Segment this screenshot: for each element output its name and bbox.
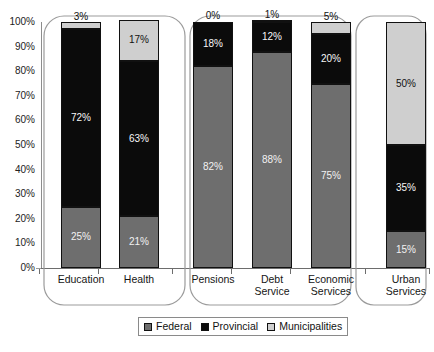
bar-segment-value-label: 1% — [265, 10, 279, 20]
bar-segment-value-label: 5% — [324, 12, 338, 22]
x-axis-category-labels: EducationHealthPensionsDebtServiceEconom… — [41, 269, 430, 307]
bar-stack: 15%35%50% — [386, 22, 426, 268]
bar-segment-value-label: 50% — [396, 79, 416, 89]
y-axis-tick-label: 40% — [15, 165, 35, 175]
y-axis-tick-label: 0% — [21, 263, 35, 273]
bar-segment-value-label: 82% — [203, 162, 223, 172]
x-axis-tick-mark — [231, 269, 232, 274]
x-axis-tick-mark — [429, 269, 430, 274]
y-axis-tick-label: 20% — [15, 214, 35, 224]
stacked-bar-chart: 100%90%80%70%60%50%40%30%20%10%0% 25%72%… — [0, 0, 434, 352]
y-axis-tick-label: 50% — [15, 140, 35, 150]
legend-label: Federal — [156, 321, 192, 332]
bar-column: 15%35%50% — [386, 22, 426, 268]
bar-segment-value-label: 72% — [71, 113, 91, 123]
legend-swatch-icon — [144, 323, 152, 331]
bar-segment-value-label: 75% — [321, 171, 341, 181]
bar-segment: 20% — [311, 34, 351, 83]
bar-segment-value-label: 0% — [206, 11, 220, 21]
x-axis-category-label: EconomicServices — [299, 273, 363, 297]
bar-segment: 63% — [119, 61, 159, 216]
bar-segment-value-label: 17% — [129, 35, 149, 45]
bar-segment: 15% — [386, 231, 426, 268]
legend-label: Municipalities — [279, 321, 342, 332]
bar-segment-value-label: 63% — [129, 134, 149, 144]
bar-segment: 35% — [386, 145, 426, 231]
bar-segment: 5% — [311, 22, 351, 34]
bar-segment: 88% — [252, 52, 292, 268]
bar-segment-value-label: 12% — [262, 32, 282, 42]
bar-column: 75%20%5% — [311, 22, 351, 268]
x-axis-category-label: DebtService — [240, 273, 304, 297]
x-axis-category-label: Pensions — [181, 273, 245, 285]
y-axis-tick-label: 10% — [15, 238, 35, 248]
category-label-line: Health — [107, 273, 171, 285]
bar-column: 21%63%17% — [119, 22, 159, 268]
category-label-line: Services — [299, 285, 363, 297]
bar-segment: 21% — [119, 216, 159, 268]
bar-column: 82%18%0% — [193, 22, 233, 268]
bar-segment-value-label: 18% — [203, 39, 223, 49]
chart-legend: FederalProvincialMunicipalities — [138, 317, 348, 336]
legend-label: Provincial — [213, 321, 259, 332]
legend-item: Municipalities — [267, 321, 342, 332]
legend-item: Provincial — [201, 321, 259, 332]
bar-segment-value-label: 35% — [396, 183, 416, 193]
x-axis-tick-mark — [39, 269, 40, 274]
y-axis-tick-label: 60% — [15, 115, 35, 125]
bar-segment: 18% — [193, 22, 233, 66]
legend-swatch-icon — [201, 323, 209, 331]
bar-column: 88%12%1% — [252, 22, 292, 268]
bar-segment: 75% — [311, 84, 351, 269]
bar-segment: 82% — [193, 66, 233, 268]
bar-stack: 25%72%3% — [61, 22, 101, 268]
bar-segment: 50% — [386, 22, 426, 145]
legend-item: Federal — [144, 321, 192, 332]
y-axis-tick-label: 80% — [15, 66, 35, 76]
bar-segment: 17% — [119, 20, 159, 62]
category-label-line: Education — [49, 273, 113, 285]
x-axis-category-label: Education — [49, 273, 113, 285]
category-label-line: Pensions — [181, 273, 245, 285]
bar-segment: 3% — [61, 22, 101, 29]
legend-swatch-icon — [267, 323, 275, 331]
category-label-line: Economic — [299, 273, 363, 285]
bar-segment-value-label: 88% — [262, 155, 282, 165]
bar-segment-value-label: 25% — [71, 232, 91, 242]
y-axis-tick-label: 30% — [15, 189, 35, 199]
bar-segment: 12% — [252, 22, 292, 52]
bar-segment-value-label: 20% — [321, 54, 341, 64]
bar-stack: 21%63%17% — [119, 22, 159, 268]
y-axis-tick-label: 90% — [15, 42, 35, 52]
y-axis: 100%90%80%70%60%50%40%30%20%10%0% — [0, 0, 40, 352]
y-axis-tick-label: 100% — [9, 17, 35, 27]
category-label-line: Service — [240, 285, 304, 297]
bar-stack: 82%18%0% — [193, 22, 233, 268]
plot-area: 25%72%3%21%63%17%82%18%0%88%12%1%75%20%5… — [41, 22, 430, 268]
bar-stack: 75%20%5% — [311, 22, 351, 268]
x-axis-tick-mark — [290, 269, 291, 274]
bar-column: 25%72%3% — [61, 22, 101, 268]
x-axis-tick-mark — [365, 269, 366, 274]
x-axis-tick-mark — [172, 269, 173, 274]
x-axis-tick-mark — [98, 269, 99, 274]
category-label-line: Urban — [374, 273, 434, 285]
bar-segment: 72% — [61, 29, 101, 206]
y-axis-tick-label: 70% — [15, 91, 35, 101]
bar-segment-value-label: 15% — [396, 245, 416, 255]
bar-segment-value-label: 3% — [74, 12, 88, 22]
bar-segment-value-label: 21% — [129, 237, 149, 247]
x-axis-category-label: UrbanServices — [374, 273, 434, 297]
category-label-line: Services — [374, 285, 434, 297]
bar-stack: 88%12%1% — [252, 22, 292, 268]
bar-segment: 1% — [252, 20, 292, 22]
x-axis-category-label: Health — [107, 273, 171, 285]
category-label-line: Debt — [240, 273, 304, 285]
bar-segment: 25% — [61, 207, 101, 269]
